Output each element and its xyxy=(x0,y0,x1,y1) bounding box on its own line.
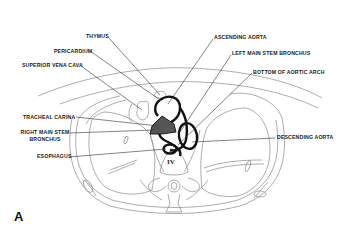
label-thymus: THYMUS xyxy=(86,33,109,39)
label-right-main-stem-bronchus-line2: BRONCHUS xyxy=(20,136,70,142)
label-descending-aorta: DESCENDING AORTA xyxy=(277,134,333,140)
label-right-main-stem-bronchus-line1: RIGHT MAIN STEM xyxy=(20,129,70,135)
vertebra-label: IV xyxy=(167,158,175,166)
panel-label: A xyxy=(14,209,23,224)
label-ascending-aorta: ASCENDING AORTA xyxy=(214,34,267,40)
tracheal-carina-shape xyxy=(150,116,176,134)
label-bottom-of-aortic-arch: BOTTOM OF AORTIC ARCH xyxy=(253,69,325,75)
label-superior-vena-cava: SUPERIOR VENA CAVA xyxy=(22,62,83,68)
label-pericardium: PERICARDIUM xyxy=(54,48,92,54)
label-left-main-stem-bronchus: LEFT MAIN STEM BRONCHUS xyxy=(232,50,310,56)
label-tracheal-carina: TRACHEAL CARINA xyxy=(23,114,75,120)
label-esophagus: ESOPHAGUS xyxy=(37,153,72,159)
